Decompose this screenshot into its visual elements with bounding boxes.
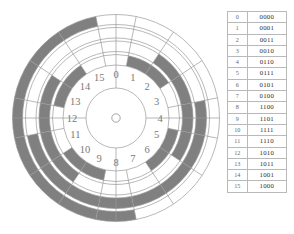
table-row: 20011 bbox=[228, 34, 287, 45]
table-cell-gray: 0000 bbox=[247, 12, 286, 23]
encoder-disc-svg: 0123456789101112131415 bbox=[8, 10, 224, 226]
table-cell-gray: 1111 bbox=[247, 124, 286, 135]
table-cell-gray: 0111 bbox=[247, 68, 286, 79]
table-cell-decimal: 12 bbox=[228, 147, 248, 158]
table-row: 00000 bbox=[228, 12, 287, 23]
table-cell-decimal: 7 bbox=[228, 91, 248, 102]
table-row: 111110 bbox=[228, 136, 287, 147]
table-cell-decimal: 9 bbox=[228, 113, 248, 124]
table-row: 30010 bbox=[228, 45, 287, 56]
table-row: 131011 bbox=[228, 158, 287, 169]
sector-number-label: 14 bbox=[80, 81, 91, 92]
table-row: 70100 bbox=[228, 91, 287, 102]
table-cell-decimal: 1 bbox=[228, 23, 248, 34]
table-cell-decimal: 5 bbox=[228, 68, 248, 79]
table-cell-decimal: 10 bbox=[228, 124, 248, 135]
table-row: 151000 bbox=[228, 181, 287, 192]
table-cell-gray: 0110 bbox=[247, 57, 286, 68]
table-cell-gray: 1001 bbox=[247, 170, 286, 181]
sector-number-label: 13 bbox=[70, 96, 81, 107]
table-row: 91101 bbox=[228, 113, 287, 124]
gray-code-table-body: 0000010001200113001040110501116010170100… bbox=[228, 12, 287, 193]
table-row: 50111 bbox=[228, 68, 287, 79]
table-cell-decimal: 11 bbox=[228, 136, 248, 147]
table-cell-decimal: 13 bbox=[228, 158, 248, 169]
table-row: 121010 bbox=[228, 147, 287, 158]
table-cell-gray: 0010 bbox=[247, 45, 286, 56]
table-cell-decimal: 2 bbox=[228, 34, 248, 45]
sector-number-label: 0 bbox=[113, 69, 118, 80]
table-cell-decimal: 8 bbox=[228, 102, 248, 113]
gray-code-table-wrap: 0000010001200113001040110501116010170100… bbox=[227, 11, 287, 193]
sector-number-label: 9 bbox=[97, 153, 102, 164]
table-row: 40110 bbox=[228, 57, 287, 68]
table-row: 101111 bbox=[228, 124, 287, 135]
encoder-disc: 0123456789101112131415 bbox=[8, 10, 224, 226]
sector-number-label: 3 bbox=[154, 96, 159, 107]
table-cell-gray: 1100 bbox=[247, 102, 286, 113]
table-cell-gray: 1101 bbox=[247, 113, 286, 124]
table-cell-gray: 0001 bbox=[247, 23, 286, 34]
gray-code-table: 0000010001200113001040110501116010170100… bbox=[227, 11, 287, 193]
table-cell-gray: 1110 bbox=[247, 136, 286, 147]
sector-number-label: 12 bbox=[67, 113, 78, 124]
table-row: 10001 bbox=[228, 23, 287, 34]
sector-number-label: 7 bbox=[130, 153, 135, 164]
sector-number-label: 8 bbox=[113, 157, 118, 168]
table-cell-gray: 0011 bbox=[247, 34, 286, 45]
sector-number-label: 10 bbox=[80, 144, 91, 155]
table-cell-gray: 1010 bbox=[247, 147, 286, 158]
sector-number-label: 5 bbox=[154, 129, 159, 140]
table-cell-decimal: 0 bbox=[228, 12, 248, 23]
gray-code-encoder-figure: 0123456789101112131415 00000100012001130… bbox=[0, 0, 294, 234]
table-cell-decimal: 14 bbox=[228, 170, 248, 181]
table-cell-gray: 1000 bbox=[247, 181, 286, 192]
sector-number-label: 6 bbox=[144, 144, 149, 155]
sector-number-label: 4 bbox=[157, 113, 163, 124]
table-row: 60101 bbox=[228, 79, 287, 90]
sector-number-label: 2 bbox=[144, 81, 149, 92]
table-cell-decimal: 3 bbox=[228, 45, 248, 56]
sector-number-label: 11 bbox=[70, 129, 80, 140]
table-cell-gray: 0101 bbox=[247, 79, 286, 90]
table-cell-gray: 0100 bbox=[247, 91, 286, 102]
sector-number-label: 1 bbox=[130, 72, 135, 83]
hub-hole bbox=[112, 114, 120, 122]
sector-number-label: 15 bbox=[94, 72, 105, 83]
table-row: 81100 bbox=[228, 102, 287, 113]
table-cell-decimal: 15 bbox=[228, 181, 248, 192]
table-cell-decimal: 4 bbox=[228, 57, 248, 68]
table-row: 141001 bbox=[228, 170, 287, 181]
table-cell-gray: 1011 bbox=[247, 158, 286, 169]
table-cell-decimal: 6 bbox=[228, 79, 248, 90]
